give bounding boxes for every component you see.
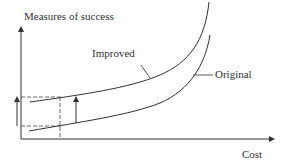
y-axis-label: Measures of success [24, 10, 114, 22]
leader-improved [141, 65, 150, 78]
improved-label: Improved [92, 47, 135, 59]
diagram: Measures of success Cost Improved Origin… [0, 0, 287, 167]
original-label: Original [215, 68, 252, 80]
x-axis-label: Cost [242, 148, 262, 160]
